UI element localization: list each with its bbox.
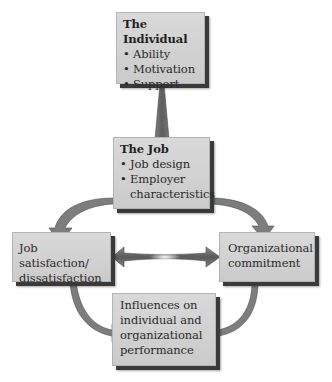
node-text-line: individual and	[120, 313, 209, 328]
node-individual: The Individual Ability Motivation Suppor…	[116, 12, 205, 84]
arrow-satisfaction-commitment	[112, 247, 220, 267]
node-job-title: The Job	[120, 142, 203, 157]
node-text-line: Influences on	[120, 298, 209, 313]
node-job-list: Job design Employer characteristics	[120, 157, 203, 202]
node-individual-title: The Individual	[123, 17, 198, 47]
node-text-line: Job satisfaction/	[19, 241, 104, 271]
node-individual-list: Ability Motivation Support	[123, 47, 198, 92]
diagram-canvas: The Individual Ability Motivation Suppor…	[0, 0, 332, 382]
node-job-satisfaction: Job satisfaction/ dissatisfaction	[12, 232, 111, 282]
node-organizational-commitment: Organizational commitment	[219, 232, 315, 282]
list-item: Ability	[123, 47, 198, 62]
node-text-line: performance	[120, 343, 209, 358]
list-item: Job design	[120, 157, 203, 172]
node-text-line: Organizational	[228, 241, 308, 256]
node-job: The Job Job design Employer characterist…	[113, 137, 210, 209]
list-item: Employer characteristics	[120, 172, 203, 202]
node-influences-on-performance: Influences on individual and organizatio…	[112, 293, 216, 366]
node-text-line: organizational	[120, 328, 209, 343]
node-text-line: commitment	[228, 256, 308, 271]
list-item: Support	[123, 77, 198, 92]
list-item: Motivation	[123, 62, 198, 77]
node-text-line: dissatisfaction	[19, 271, 104, 286]
